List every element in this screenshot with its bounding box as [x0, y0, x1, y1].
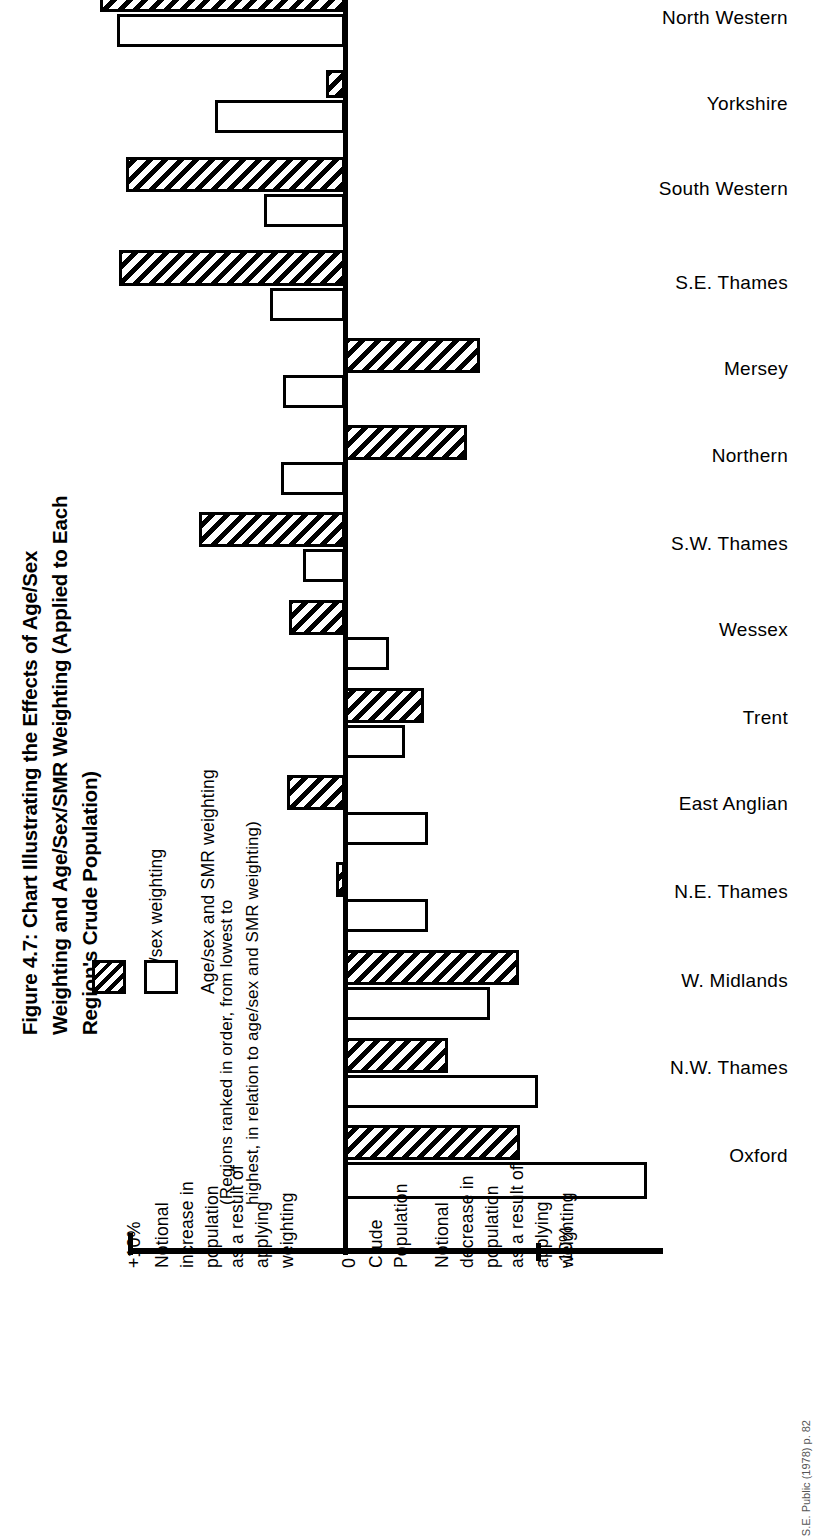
region-label-south-western: South Western — [659, 178, 788, 200]
region-label-yorkshire: Yorkshire — [707, 93, 788, 115]
region-label-wessex: Wessex — [719, 619, 788, 641]
bar-east-anglian-agesexsmr — [345, 812, 428, 845]
axis-tick-label-plus10: +10% — [124, 1221, 145, 1268]
region-label-mersey: Mersey — [724, 358, 788, 380]
region-label-se-thames: S.E. Thames — [675, 272, 788, 294]
axis-group-label-increase: Notional increase in population as a res… — [150, 1165, 300, 1268]
bar-north-western-agesexsmr — [117, 14, 345, 47]
bar-nw-thames-agesex — [345, 1038, 448, 1073]
axis-tick-label-minus10: -10% — [556, 1226, 577, 1268]
region-label-east-anglian: East Anglian — [679, 793, 788, 815]
region-label-trent: Trent — [743, 707, 788, 729]
footer-source-mark: S.E. Public (1978) p. 82 — [800, 1420, 812, 1536]
bar-east-anglian-agesex — [287, 775, 345, 810]
bar-w-midlands-agesex — [345, 950, 519, 985]
bar-northern-agesexsmr — [281, 462, 345, 495]
bar-trent-agesex — [345, 688, 424, 723]
axis-group-label-crude: Crude Population — [364, 1183, 414, 1268]
region-label-nw-thames: N.W. Thames — [670, 1057, 788, 1079]
bar-oxford-agesex — [345, 1125, 520, 1160]
bar-south-western-agesex — [126, 157, 345, 192]
bar-trent-agesexsmr — [345, 725, 405, 758]
bar-ne-thames-agesex — [336, 862, 345, 897]
bar-mersey-agesex — [345, 338, 480, 373]
bar-northern-agesex — [345, 425, 467, 460]
region-label-northern: Northern — [712, 445, 788, 467]
bar-yorkshire-agesexsmr — [215, 100, 345, 133]
bar-w-midlands-agesexsmr — [345, 987, 490, 1020]
axis-tick-zero — [343, 1229, 348, 1255]
bar-mersey-agesexsmr — [283, 375, 345, 408]
region-label-north-western: North Western — [662, 7, 788, 29]
bar-sw-thames-agesex — [199, 512, 345, 547]
bar-se-thames-agesex — [119, 250, 345, 286]
bar-north-western-agesex — [100, 0, 345, 12]
axis-tick-label-zero: 0 — [339, 1258, 360, 1268]
bar-se-thames-agesexsmr — [270, 288, 345, 321]
bar-wessex-agesex — [289, 600, 345, 635]
bar-sw-thames-agesexsmr — [303, 549, 345, 582]
bar-yorkshire-agesex — [326, 70, 345, 98]
bar-nw-thames-agesexsmr — [345, 1075, 538, 1108]
region-label-oxford: Oxford — [729, 1145, 788, 1167]
region-label-sw-thames: S.W. Thames — [671, 533, 788, 555]
bar-south-western-agesexsmr — [264, 194, 345, 227]
bar-ne-thames-agesexsmr — [345, 899, 428, 932]
bar-wessex-agesexsmr — [345, 637, 389, 670]
region-label-w-midlands: W. Midlands — [681, 970, 788, 992]
region-label-ne-thames: N.E. Thames — [674, 881, 788, 903]
